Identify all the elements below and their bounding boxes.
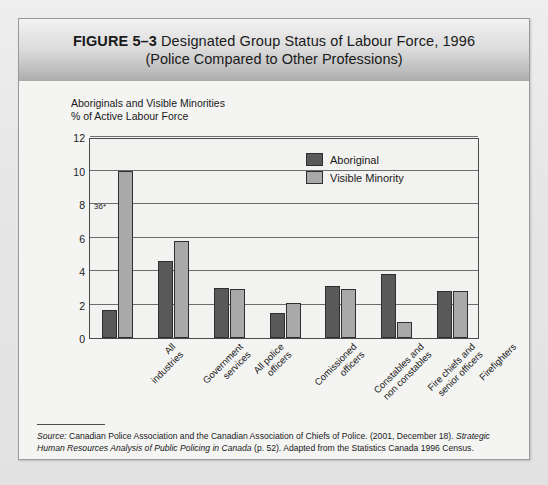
chart-area: Aboriginals and Visible Minorities % of … — [19, 81, 529, 424]
y-tick-label: 4 — [65, 266, 85, 278]
bar-group — [437, 139, 468, 338]
bar-group — [102, 139, 133, 338]
bar — [102, 310, 117, 338]
bars-layer: 36* — [90, 139, 478, 338]
source-label: Source: — [37, 431, 67, 441]
figure-title-line-1: FIGURE 5–3 Designated Group Status of La… — [73, 33, 475, 49]
source-text: Source: Canadian Police Association and … — [37, 431, 513, 454]
gridline — [90, 136, 478, 137]
y-axis-caption: Aboriginals and Visible Minorities % of … — [71, 97, 225, 123]
bar-group — [158, 139, 189, 338]
legend-label-visible-minority: Visible Minority — [330, 172, 404, 184]
y-axis-caption-line-2: % of Active Labour Force — [71, 110, 225, 123]
x-axis-labels: AllindustriesGovernmentservicesAll polic… — [89, 341, 479, 423]
x-axis-label: Fire chiefs andsenior officers — [426, 341, 486, 401]
y-tick-label: 6 — [65, 233, 85, 245]
bar — [397, 322, 412, 338]
source-roman-2: (p. 52). Adapted from the Statistics Can… — [252, 443, 474, 453]
y-tick-label: 2 — [65, 300, 85, 312]
y-tick-label: 8 — [65, 199, 85, 211]
x-axis-label: Allindustries — [141, 341, 185, 385]
bar-group — [214, 139, 245, 338]
bar — [118, 171, 133, 339]
bar-group — [270, 139, 301, 338]
figure-title-line-2: (Police Compared to Other Professions) — [145, 51, 402, 67]
x-axis-label: Constables andnon constables — [371, 341, 433, 403]
figure-container: FIGURE 5–3 Designated Group Status of La… — [18, 18, 530, 460]
y-axis-caption-line-1: Aboriginals and Visible Minorities — [71, 97, 225, 110]
figure-title-text: Designated Group Status of Labour Force,… — [161, 33, 475, 49]
legend-item-aboriginal: Aboriginal — [306, 153, 404, 166]
y-axis-ticks: 024681012 — [63, 138, 85, 339]
bar — [174, 241, 189, 338]
bar — [341, 289, 356, 338]
bar — [437, 291, 452, 338]
bar — [453, 291, 468, 338]
bar — [230, 289, 245, 338]
x-axis-label: Comissionedofficers — [312, 341, 366, 395]
plot-frame: 36* Aboriginal Visible Minority — [89, 138, 479, 339]
x-axis-label: All policeofficers — [251, 341, 293, 383]
y-tick-label: 12 — [65, 132, 85, 144]
bar — [381, 274, 396, 338]
legend-item-visible-minority: Visible Minority — [306, 171, 404, 184]
x-axis-label-line: Firefighters — [477, 341, 518, 382]
chart-legend: Aboriginal Visible Minority — [306, 153, 404, 189]
bar — [270, 313, 285, 338]
x-axis-label: Firefighters — [477, 341, 518, 382]
legend-swatch-aboriginal — [306, 153, 323, 166]
figure-number: FIGURE 5–3 — [73, 33, 157, 49]
source-roman-1: Canadian Police Association and the Cana… — [67, 431, 456, 441]
source-divider — [37, 424, 105, 425]
legend-label-aboriginal: Aboriginal — [330, 154, 379, 166]
bar — [325, 286, 340, 338]
y-tick-label: 10 — [65, 166, 85, 178]
bar — [158, 261, 173, 338]
chart-annotation: 36* — [94, 202, 106, 211]
x-axis-label: Governmentservices — [200, 341, 253, 394]
figure-header: FIGURE 5–3 Designated Group Status of La… — [19, 19, 529, 81]
bar — [214, 288, 229, 338]
legend-swatch-visible-minority — [306, 171, 323, 184]
source-note: Source: Canadian Police Association and … — [19, 424, 529, 461]
y-tick-label: 0 — [65, 333, 85, 345]
bar — [286, 303, 301, 338]
